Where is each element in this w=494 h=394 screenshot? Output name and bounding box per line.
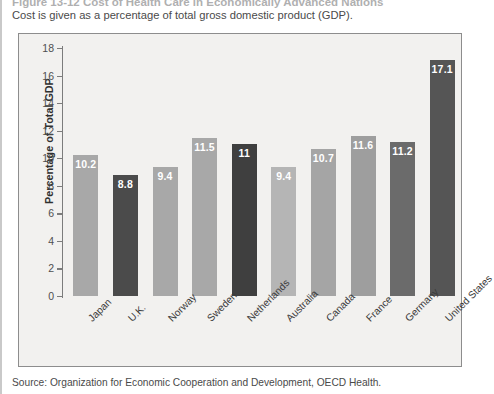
x-axis-label: France [364,294,394,324]
y-tick-mark [57,186,63,187]
y-tick-mark [57,158,63,159]
x-axis-label: U.K. [126,302,148,324]
bar-value-label: 9.4 [153,170,178,182]
y-tick-mark [57,48,63,49]
y-tick-label: 10 [42,152,54,164]
bar-germany: 11.2 [390,142,415,296]
y-tick-mark [57,268,63,269]
bar-netherlands: 11 [232,144,257,296]
bar-value-label: 10.7 [311,152,336,164]
y-tick-label: 0 [48,290,54,302]
bar-value-label: 17.1 [430,63,455,75]
bar-france: 11.6 [351,136,376,296]
y-tick-mark [57,213,63,214]
y-tick-mark [57,241,63,242]
figure-caption-subtitle: Cost is given as a percentage of total g… [12,9,474,21]
figure-caption-title: Figure 13-12 Cost of Health Care in Econ… [12,0,474,8]
y-tick-label: 8 [48,180,54,192]
bar-value-label: 11.6 [351,139,376,151]
y-tick-mark [57,103,63,104]
y-tick-mark [57,296,63,297]
y-tick-label: 4 [48,235,54,247]
bar-united-states: 17.1 [430,60,455,296]
figure-source-note: Source: Organization for Economic Cooper… [12,377,381,388]
bar-value-label: 11.5 [192,141,217,153]
x-axis-label: Japan [86,296,113,323]
x-axis-label: Norway [166,292,198,324]
y-tick-label: 18 [42,42,54,54]
bar-value-label: 11.2 [390,145,415,157]
bar-japan: 10.2 [73,155,98,296]
bar-value-label: 9.4 [271,170,296,182]
y-tick-label: 16 [42,70,54,82]
y-tick-mark [57,76,63,77]
bar-canada: 10.7 [311,149,336,296]
y-tick-label: 2 [48,262,54,274]
bar-value-label: 8.8 [113,178,138,190]
bar-value-label: 11 [232,147,257,159]
y-tick-label: 14 [42,97,54,109]
y-tick-label: 12 [42,125,54,137]
y-tick-mark [57,131,63,132]
page-left-rule [0,0,2,394]
figure-frame: Percentage of Total GDP 024681012141618 … [18,33,462,367]
plot-area: 024681012141618 10.28.89.411.5119.410.71… [63,48,459,296]
y-tick-label: 6 [48,207,54,219]
bar-sweden: 11.5 [192,138,217,296]
bar-u-k: 8.8 [113,175,138,296]
bar-value-label: 10.2 [73,158,98,170]
bar-norway: 9.4 [153,167,178,297]
